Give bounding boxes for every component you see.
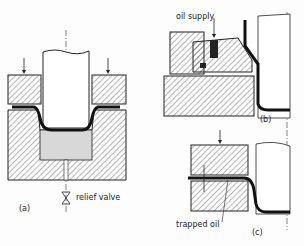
panel-a-label: (a) <box>19 204 30 213</box>
oil-supply-label: oil supply <box>176 12 214 21</box>
panel-c-label: (c) <box>252 228 263 237</box>
panel-b-drawing <box>164 12 290 128</box>
panel-b-label: (b) <box>260 115 271 124</box>
hydroforming-diagram: relief valve (a) oil supply (b) trapped … <box>0 0 304 246</box>
relief-valve-label: relief valve <box>76 193 120 202</box>
panel-a-drawing <box>8 30 126 212</box>
trapped-oil-label: trapped oil <box>176 220 219 229</box>
diagram-drawing <box>0 0 304 246</box>
panel-c-drawing <box>188 130 290 230</box>
